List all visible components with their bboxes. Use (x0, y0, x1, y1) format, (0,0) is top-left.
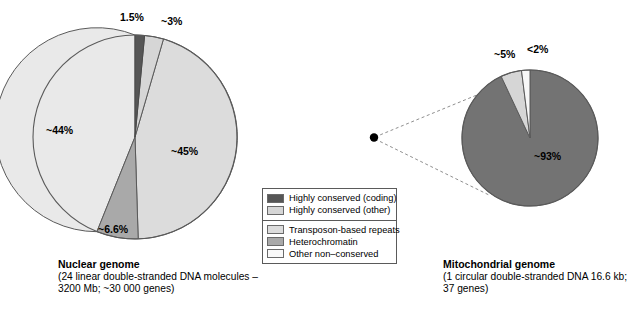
nuclear-label-transposon: ~45% (171, 146, 198, 157)
nuclear-genome-caption: Nuclear genome (24 linear double-strande… (58, 258, 268, 296)
legend-label-heterochromatin: Heterochromatin (289, 237, 358, 247)
mito-label-other-nonconserved: <2% (527, 44, 548, 55)
mito-label-conserved-other: ~5% (494, 49, 515, 60)
figure-canvas: 1.5% ~3% ~45% ~6.6% ~44% ~5% <2% ~93% Hi… (0, 0, 639, 327)
nuclear-pie (0, 28, 237, 239)
legend-label-transposon-based-repeats: Transposon-based repeats (289, 225, 400, 235)
legend-item-other-non-conserved[interactable]: Other non–conserved (267, 248, 392, 260)
legend-label-other-non-conserved: Other non–conserved (289, 249, 378, 259)
nuclear-label-coding: 1.5% (120, 12, 144, 23)
legend-item-transposon-based-repeats[interactable]: Transposon-based repeats (267, 224, 392, 236)
legend-swatch-transposon-based-repeats (267, 225, 284, 234)
nuclear-label-heterochromatin: ~6.6% (98, 224, 128, 235)
legend-item-heterochromatin[interactable]: Heterochromatin (267, 236, 392, 248)
legend-label-highly-conserved-coding: Highly conserved (coding) (289, 193, 396, 203)
mitochondrial-genome-caption: Mitochondrial genome (1 circular double-… (443, 258, 633, 296)
legend-swatch-other-non-conserved (267, 249, 284, 258)
legend-swatch-highly-conserved-coding (267, 194, 284, 203)
legend-swatch-heterochromatin (267, 237, 284, 246)
legend-label-highly-conserved-other: Highly conserved (other) (289, 205, 390, 215)
legend: Highly conserved (coding) Highly conserv… (262, 188, 397, 264)
legend-group-conserved: Highly conserved (coding) Highly conserv… (263, 189, 396, 221)
mito-caption-subtitle: (1 circular double-stranded DNA 16.6 kb;… (443, 271, 633, 296)
mito-caption-title: Mitochondrial genome (443, 258, 633, 271)
nuclear-label-conserved-other: ~3% (161, 16, 182, 27)
magnifier-origin-dot (370, 133, 378, 141)
nuclear-caption-title: Nuclear genome (58, 258, 268, 271)
legend-item-highly-conserved-other[interactable]: Highly conserved (other) (267, 205, 392, 217)
legend-item-highly-conserved-coding[interactable]: Highly conserved (coding) (267, 193, 392, 205)
nuclear-label-other-nonconserved: ~44% (46, 125, 73, 136)
mitochondrial-pie (462, 70, 598, 206)
legend-group-nonconserved: Transposon-based repeats Heterochromatin… (263, 221, 396, 264)
nuclear-caption-subtitle: (24 linear double-stranded DNA molecules… (58, 271, 268, 296)
legend-swatch-highly-conserved-other (267, 206, 284, 215)
mito-label-coding: ~93% (534, 151, 561, 162)
